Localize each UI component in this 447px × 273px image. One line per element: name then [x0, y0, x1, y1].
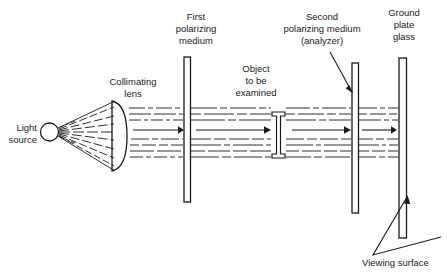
- collimating-lens: [112, 101, 127, 171]
- first-polarizing-medium: [184, 57, 191, 202]
- label-first-polarizer-line1: First: [187, 11, 206, 22]
- label-second-polarizer-line1: Second: [306, 11, 338, 22]
- light-source-bulb: [41, 123, 59, 141]
- direction-arrow-3: [292, 126, 351, 134]
- label-ground-glass-line1: Ground: [388, 7, 420, 18]
- label-light-source-line1: Light: [16, 122, 37, 133]
- second-polarizing-medium: [352, 63, 359, 213]
- label-viewing-surface: Viewing surface: [362, 257, 429, 268]
- label-object-line3: examined: [235, 87, 276, 98]
- direction-arrow-1: [133, 126, 184, 134]
- beam-segment-polarizer1-to-object: [191, 108, 271, 157]
- label-object-line2: to be: [245, 75, 266, 86]
- beam-segment-object-to-analyzer: [286, 108, 351, 157]
- direction-arrow-2: [196, 126, 271, 134]
- label-ground-glass-line3: glass: [393, 31, 415, 42]
- ground-plate-glass: [399, 58, 407, 238]
- label-first-polarizer-line2: polarizing: [176, 23, 217, 34]
- label-second-polarizer-line3: (analyzer): [301, 35, 343, 46]
- optical-diagram: Light source Collimating lens First pola…: [0, 0, 447, 273]
- object-to-be-examined: [272, 112, 285, 158]
- label-collimating-lens-line1: Collimating: [110, 76, 157, 87]
- label-light-source-line2: source: [8, 134, 37, 145]
- figure-canvas: Light source Collimating lens First pola…: [0, 0, 447, 273]
- label-ground-glass-line2: plate: [394, 19, 415, 30]
- diverging-ray-bundle: [58, 101, 115, 171]
- label-first-polarizer-line3: medium: [179, 35, 213, 46]
- label-collimating-lens-line2: lens: [124, 88, 142, 99]
- label-second-polarizer-line2: polarizing medium: [283, 23, 360, 34]
- label-object-line1: Object: [242, 63, 270, 74]
- direction-arrow-4: [362, 126, 397, 134]
- beam-segment-lens-to-polarizer1: [129, 108, 183, 157]
